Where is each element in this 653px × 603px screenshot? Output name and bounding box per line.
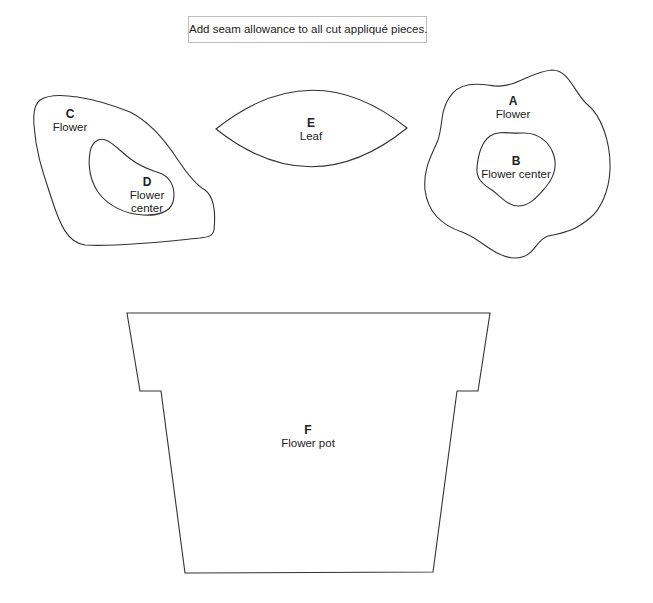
piece-b-name: Flower center xyxy=(481,168,551,180)
piece-d-name: Flower xyxy=(130,189,165,202)
piece-a-name: Flower xyxy=(496,108,531,120)
piece-c-name: Flower xyxy=(53,121,88,133)
piece-b-id: B xyxy=(481,155,551,168)
piece-d-id: D xyxy=(130,176,165,189)
piece-e-id: E xyxy=(300,117,322,130)
piece-f-id: F xyxy=(281,424,335,437)
piece-f-name: Flower pot xyxy=(281,437,335,449)
piece-c-id: C xyxy=(53,108,88,121)
piece-e-label: E Leaf xyxy=(300,117,322,143)
piece-e-name: Leaf xyxy=(300,130,322,142)
piece-f-label: F Flower pot xyxy=(281,424,335,450)
piece-a-label: A Flower xyxy=(496,95,531,121)
piece-d-label: D Flower center xyxy=(130,176,165,215)
piece-c-label: C Flower xyxy=(53,108,88,134)
applique-pattern-canvas xyxy=(0,0,653,603)
piece-b-label: B Flower center xyxy=(481,155,551,181)
piece-a-id: A xyxy=(496,95,531,108)
piece-d-name-line2: center xyxy=(130,202,165,215)
